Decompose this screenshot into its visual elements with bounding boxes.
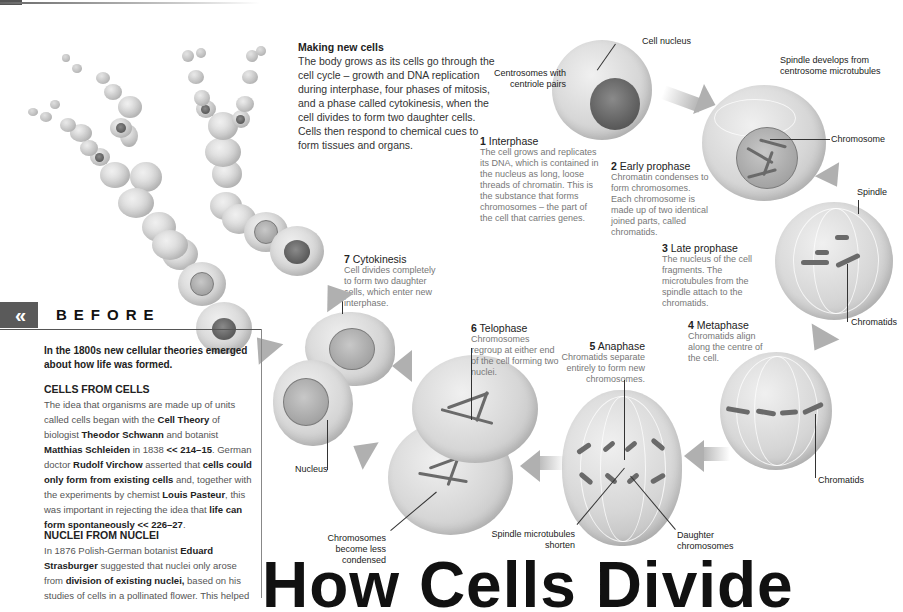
label-centrosomes: Centrosomes with centriole pairs xyxy=(490,68,566,90)
label-chromosome: Chromosome xyxy=(831,134,885,145)
stage-6-telophase: 6 Telophase Chromosomes regroup at eithe… xyxy=(471,322,561,378)
cell-interphase xyxy=(552,40,652,140)
label-spindle-develops: Spindle develops from centrosome microtu… xyxy=(780,55,900,77)
cell-early-prophase xyxy=(702,85,826,201)
stage-5-anaphase: 5 Anaphase Chromatids separate entirely … xyxy=(560,340,645,385)
arrow-6-to-7 xyxy=(392,350,412,382)
stage-2-early-prophase: 2 Early prophase Chromatin condenses to … xyxy=(611,160,711,238)
section-heading-nuclei-from-nuclei: NUCLEI FROM NUCLEI xyxy=(44,528,256,543)
intro-heading: Making new cells xyxy=(298,41,498,54)
stage-4-metaphase: 4 Metaphase Chromatids align along the c… xyxy=(688,319,768,364)
stage-5-body: Chromatids separate entirely to form new… xyxy=(560,352,645,385)
cell-late-prophase xyxy=(775,202,893,320)
cell-anaphase xyxy=(562,390,682,546)
stage-1-body: The cell grows and replicates its DNA, w… xyxy=(480,147,600,224)
arrowhead-icon xyxy=(684,440,704,472)
intro-body: The body grows as its cells go through t… xyxy=(298,54,498,152)
stage-7-title: Cytokinesis xyxy=(353,253,407,265)
stage-3-body: The nucleus of the cell fragments. The m… xyxy=(662,254,762,309)
arrow-4-to-5 xyxy=(700,447,730,461)
cell-chain-illustration xyxy=(0,0,300,300)
arrowhead-icon xyxy=(520,450,540,482)
section-heading-cells-from-cells: CELLS FROM CELLS xyxy=(44,382,256,397)
stage-7-cytokinesis: 7 Cytokinesis Cell divides completely to… xyxy=(344,253,444,309)
arrow-3-to-4 xyxy=(801,323,840,358)
label-chromatids-2: Chromatids xyxy=(818,475,864,486)
stage-3-title: Late prophase xyxy=(671,242,738,254)
stage-2-body: Chromatin condenses to form chromosomes.… xyxy=(611,172,711,238)
before-rule xyxy=(0,329,262,330)
arrow-6b-to-7 xyxy=(345,432,378,470)
section-body-nuclei-from-nuclei: In 1876 Polish-German botanist Eduard St… xyxy=(44,543,256,603)
stage-1-interphase: 1 Interphase The cell grows and replicat… xyxy=(480,135,600,224)
cell-cytokinesis-lower xyxy=(273,360,353,446)
stage-4-title: Metaphase xyxy=(697,319,749,331)
before-lead: In the 1800s new cellular theories emerg… xyxy=(44,344,256,372)
stage-6-body: Chromosomes regroup at either end of the… xyxy=(471,334,561,378)
stage-1-title: Interphase xyxy=(489,135,539,147)
before-title: BEFORE xyxy=(56,306,161,323)
stage-6-title: Telophase xyxy=(480,322,528,334)
stage-3-late-prophase: 3 Late prophase The nucleus of the cell … xyxy=(662,242,762,309)
label-nucleus: Nucleus xyxy=(295,464,328,475)
section-body-cells-from-cells: The idea that organisms are made up of u… xyxy=(44,397,256,532)
label-chromatids-1: Chromatids xyxy=(851,317,897,328)
stage-5-title: Anaphase xyxy=(598,340,645,352)
stage-2-title: Early prophase xyxy=(620,160,691,172)
stage-7-body: Cell divides completely to form two daug… xyxy=(344,265,444,309)
before-section-nuclei: NUCLEI FROM NUCLEI In 1876 Polish-German… xyxy=(44,528,256,603)
before-section-cells: CELLS FROM CELLS The idea that organisms… xyxy=(44,382,256,532)
intro-block: Making new cells The body grows as its c… xyxy=(298,41,498,152)
stage-4-body: Chromatids align along the centre of the… xyxy=(688,331,768,364)
label-cell-nucleus: Cell nucleus xyxy=(642,36,691,47)
page-title: How Cells Divide xyxy=(262,548,794,612)
label-spindle: Spindle xyxy=(857,187,887,198)
before-icon: « xyxy=(0,302,38,328)
